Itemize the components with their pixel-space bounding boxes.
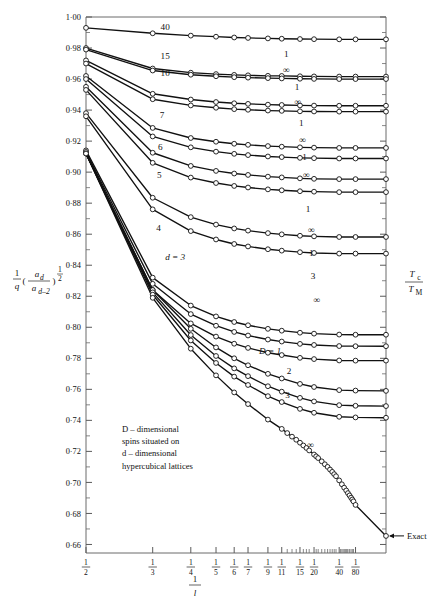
data-point (232, 356, 237, 361)
data-point (353, 177, 358, 182)
curve-label: 1 (295, 82, 300, 92)
chart-svg: 1·000·980·960·940·920·900·880·860·840·82… (0, 0, 442, 610)
data-point (150, 68, 155, 73)
data-point (279, 400, 284, 405)
data-point (298, 233, 303, 238)
svg-text:1: 1 (266, 558, 270, 567)
data-point (279, 108, 284, 113)
data-point (279, 328, 284, 333)
curve-label: 1 (284, 49, 289, 59)
data-point (266, 231, 271, 236)
annotation-line: d – dimensional (122, 448, 178, 458)
data-point (353, 344, 358, 349)
data-point (337, 251, 342, 256)
data-point (290, 434, 295, 439)
data-point (188, 164, 193, 169)
data-point (188, 72, 193, 77)
data-point (266, 76, 271, 81)
data-point (312, 234, 317, 239)
data-point (312, 103, 317, 108)
data-point (279, 389, 284, 394)
data-point (337, 109, 342, 114)
data-point (312, 77, 317, 82)
data-point (214, 361, 219, 366)
svg-text:d–2: d–2 (38, 287, 50, 296)
svg-text:M: M (416, 288, 423, 297)
svg-text:1: 1 (193, 574, 198, 584)
data-point (279, 426, 284, 431)
data-point (246, 363, 251, 368)
curve-label: 1 (309, 248, 314, 258)
y-tick-label: 0·94 (66, 106, 82, 115)
data-point (353, 156, 358, 161)
svg-text:d: d (40, 273, 44, 282)
data-point (214, 149, 219, 154)
data-point (353, 415, 358, 420)
y-tick-label: 0·74 (66, 416, 82, 425)
curve-label: 6 (158, 142, 163, 152)
data-point (246, 153, 251, 158)
data-point (337, 77, 342, 82)
data-point (298, 406, 303, 411)
data-point (312, 109, 317, 114)
data-point (312, 156, 317, 161)
y-tick-label: 0·86 (66, 230, 81, 239)
svg-text:3: 3 (151, 568, 155, 577)
curve-label: 3 (285, 390, 290, 400)
data-point (188, 312, 193, 317)
svg-text:1: 1 (354, 558, 358, 567)
data-point (266, 102, 271, 107)
y-tick-label: 0·78 (66, 354, 81, 363)
data-point (337, 156, 342, 161)
curve-label: ∞ (299, 135, 306, 145)
data-point (279, 155, 284, 160)
data-point (337, 146, 342, 151)
data-point (150, 150, 155, 155)
data-point (232, 320, 237, 325)
data-point (214, 334, 219, 339)
data-point (214, 169, 219, 174)
data-point (353, 403, 358, 408)
data-point (150, 281, 155, 286)
data-point (312, 331, 317, 336)
curve-label: 10 (161, 68, 171, 78)
data-point (214, 323, 219, 328)
data-point (188, 346, 193, 351)
svg-text:1: 1 (151, 558, 155, 567)
data-point (384, 37, 389, 42)
data-point (188, 229, 193, 234)
curve-label: 7 (160, 110, 165, 120)
data-point (279, 76, 284, 81)
data-point (266, 247, 271, 252)
svg-text:1: 1 (337, 558, 341, 567)
curve-label: 1 (302, 152, 307, 162)
y-tick-label: 0·80 (66, 323, 81, 332)
svg-text:40: 40 (335, 568, 343, 577)
data-point (312, 410, 317, 415)
annotation-line: spins situated on (122, 436, 180, 446)
data-point (266, 108, 271, 113)
data-point (384, 235, 389, 240)
data-point (214, 100, 219, 105)
svg-text:15: 15 (296, 568, 304, 577)
curve-label: 1 (306, 204, 311, 214)
data-point (279, 144, 284, 149)
data-point (232, 330, 237, 335)
data-point (384, 103, 389, 108)
data-point (232, 171, 237, 176)
data-point (266, 384, 271, 389)
data-point (279, 376, 284, 381)
data-point (298, 76, 303, 81)
data-point (337, 332, 342, 337)
curve-label: ∞ (303, 170, 310, 180)
data-point (353, 146, 358, 151)
data-point (188, 321, 193, 326)
curve-label: 1 (299, 118, 304, 128)
data-point (188, 338, 193, 343)
svg-text:1: 1 (312, 558, 316, 567)
data-point (298, 330, 303, 335)
data-point (150, 195, 155, 200)
data-point (337, 190, 342, 195)
curve-label: 5 (157, 170, 162, 180)
data-point (246, 402, 251, 407)
